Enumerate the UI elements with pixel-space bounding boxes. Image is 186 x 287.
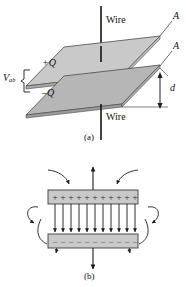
svg-text:+: + [84, 192, 89, 202]
charge-negative-label: –Q [42, 88, 54, 98]
fringe-curves-left-tails [38, 219, 47, 244]
area-label-bottom: A [173, 41, 179, 51]
svg-text:+: + [60, 192, 65, 202]
capacitor-figure: Wire Wire +Q –Q A A d Vab (a) [0, 0, 186, 287]
area-leader-bottom [160, 51, 172, 66]
separation-label: d [170, 83, 175, 93]
area-leader-top [160, 21, 172, 36]
positive-charge-symbols: ++ ++ ++ ++ ++ + [52, 192, 137, 202]
voltage-label: Vab [3, 73, 15, 84]
svg-text:+: + [116, 192, 121, 202]
svg-text:–: – [84, 236, 90, 246]
wire-bottom-label: Wire [106, 112, 126, 122]
area-label-top: A [173, 11, 179, 21]
svg-text:+: + [108, 192, 113, 202]
negative-charge-symbols: –– –– –– –– –– – [52, 236, 138, 246]
svg-text:+: + [76, 192, 81, 202]
svg-text:–: – [76, 236, 82, 246]
svg-text:+: + [132, 192, 137, 202]
svg-text:+: + [100, 192, 105, 202]
svg-text:+: + [68, 192, 73, 202]
panel-b-caption: (b) [84, 272, 95, 281]
panel-a-diagram [0, 0, 186, 145]
svg-text:–: – [68, 236, 74, 246]
svg-text:+: + [52, 192, 57, 202]
voltage-label-subscript: ab [9, 76, 15, 83]
wire-top-label: Wire [106, 15, 126, 25]
svg-text:–: – [92, 236, 98, 246]
svg-text:–: – [116, 236, 122, 246]
svg-text:–: – [52, 236, 58, 246]
svg-text:–: – [132, 236, 138, 246]
panel-b-diagram: ++ ++ ++ ++ ++ + –– –– –– –– [0, 145, 186, 287]
interior-field-lines [55, 204, 135, 232]
svg-text:+: + [124, 192, 129, 202]
svg-text:–: – [108, 236, 114, 246]
svg-text:–: – [100, 236, 106, 246]
d-dimension-arrow [157, 72, 162, 109]
svg-text:–: – [124, 236, 130, 246]
panel-a-caption: (a) [84, 133, 94, 142]
svg-text:+: + [92, 192, 97, 202]
charge-positive-label: +Q [42, 58, 56, 68]
svg-text:–: – [60, 236, 66, 246]
fringe-curves-right-tails [139, 219, 148, 244]
